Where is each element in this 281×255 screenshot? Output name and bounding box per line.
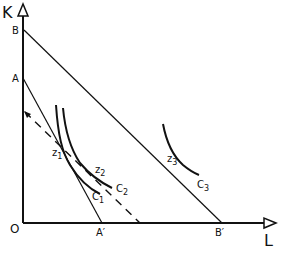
isoquant-c3 — [163, 124, 199, 175]
c1-label: C1 — [92, 191, 104, 205]
c3-label: C3 — [197, 179, 209, 193]
point-b-label: B — [12, 25, 19, 36]
x-axis-arrow-icon — [264, 218, 276, 228]
dashed-budget-line — [25, 112, 140, 223]
isoquant-diagram: K L O B A A′ B′ z1 z2 z3 C1 C2 C3 — [0, 0, 281, 255]
z1-label: z1 — [52, 147, 62, 161]
isoquant-c1 — [56, 105, 100, 194]
point-a-prime-label: A′ — [96, 227, 106, 238]
y-axis-arrow-icon — [18, 4, 28, 16]
c2-label: C2 — [116, 183, 128, 197]
point-b-prime-label: B′ — [215, 227, 225, 238]
x-axis-label: L — [264, 231, 273, 250]
point-a-label: A — [12, 73, 19, 84]
origin-label: O — [10, 222, 19, 236]
y-axis-label: K — [2, 3, 13, 22]
z2-label: z2 — [95, 164, 105, 178]
